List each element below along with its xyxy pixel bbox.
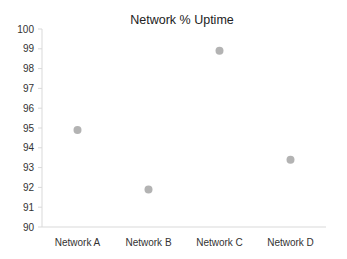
data-point	[145, 185, 153, 193]
x-category-label: Network D	[267, 237, 314, 248]
x-axis-labels: Network ANetwork BNetwork CNetwork D	[55, 237, 314, 248]
y-tick-label: 90	[23, 222, 35, 233]
y-tick-label: 91	[23, 202, 35, 213]
chart-title: Network % Uptime	[130, 13, 234, 27]
y-tick-label: 94	[23, 142, 35, 153]
x-category-label: Network B	[125, 237, 171, 248]
y-tick-label: 93	[23, 162, 35, 173]
y-tick-label: 95	[23, 123, 35, 134]
y-tick-label: 98	[23, 63, 35, 74]
y-tick-label: 100	[17, 24, 34, 35]
y-tick-label: 99	[23, 43, 35, 54]
y-tick-label: 92	[23, 182, 35, 193]
data-point	[74, 126, 82, 134]
data-point	[287, 156, 295, 164]
x-category-label: Network C	[196, 237, 243, 248]
scatter-chart: Network % Uptime 90919293949596979899100…	[0, 0, 347, 259]
y-tick-label: 97	[23, 83, 35, 94]
y-axis-ticks: 90919293949596979899100	[17, 24, 42, 233]
y-tick-label: 96	[23, 103, 35, 114]
data-points	[74, 47, 295, 194]
x-category-label: Network A	[55, 237, 101, 248]
data-point	[216, 47, 224, 55]
